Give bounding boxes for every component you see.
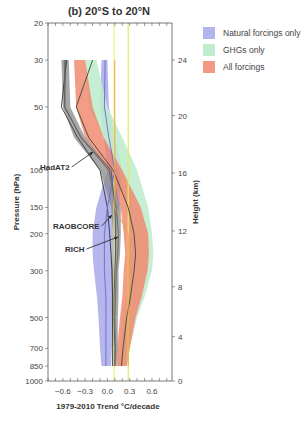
y-tick-label: 300 xyxy=(30,267,44,276)
right-axis-label: Height (km) xyxy=(191,180,200,224)
chart-title: (b) 20°S to 20°N xyxy=(68,5,150,17)
x-tick-label: −0.3 xyxy=(77,387,93,396)
legend-item-ghg: GHGs only xyxy=(203,42,300,58)
legend-item-natural: Natural forcings only xyxy=(203,25,300,41)
y-tick-label: 30 xyxy=(34,56,43,65)
height-tick-label: 12 xyxy=(178,227,187,236)
height-tick-label: 24 xyxy=(178,56,187,65)
legend-swatch-all xyxy=(203,61,215,73)
height-tick-label: 4 xyxy=(178,333,183,342)
x-tick-label: 0.3 xyxy=(124,387,136,396)
y-tick-label: 850 xyxy=(30,362,44,371)
legend-label-all: All forcings xyxy=(223,62,265,72)
legend-label-ghg: GHGs only xyxy=(223,45,265,55)
y-tick-label: 20 xyxy=(34,19,43,28)
annotation-arrow xyxy=(72,152,93,167)
y-tick-label: 200 xyxy=(30,230,44,239)
annotation-rich: RICH xyxy=(65,245,85,254)
legend-swatch-natural xyxy=(203,27,215,39)
annotation-hadat2: HadAT2 xyxy=(40,163,70,172)
y-tick-label: 150 xyxy=(30,203,44,212)
y-tick-label: 700 xyxy=(30,344,44,353)
legend-swatch-ghg xyxy=(203,44,215,56)
x-tick-label: 0.6 xyxy=(146,387,158,396)
legend-label-natural: Natural forcings only xyxy=(223,28,300,38)
annotation-raobcore: RAOBCORE xyxy=(53,222,100,231)
height-tick-label: 16 xyxy=(178,169,187,178)
legend: Natural forcings only GHGs only All forc… xyxy=(203,25,300,76)
y-axis-label: Pressure (hPa) xyxy=(12,173,21,230)
x-tick-label: 0.0 xyxy=(102,387,114,396)
legend-item-all: All forcings xyxy=(203,59,300,75)
y-tick-label: 500 xyxy=(30,314,44,323)
y-tick-label: 50 xyxy=(34,103,43,112)
model-range-bands xyxy=(61,60,153,366)
height-tick-label: 8 xyxy=(178,283,183,292)
height-tick-label: 0 xyxy=(178,377,183,386)
x-axis-label: 1979-2010 Trend °C/decade xyxy=(56,402,160,411)
height-tick-label: 20 xyxy=(178,112,187,121)
x-tick-label: −0.6 xyxy=(55,387,71,396)
y-tick-label: 1000 xyxy=(25,377,43,386)
